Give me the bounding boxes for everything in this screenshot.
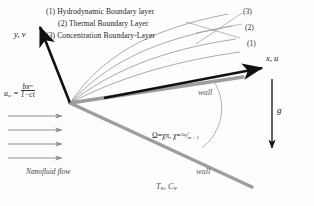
chi-fraction: 2m⁄m + 1	[181, 132, 199, 141]
legend-item-3: (3) Concentration Boundary-Layer	[46, 32, 155, 40]
chi-frac-numerator: 2m	[181, 132, 187, 137]
curve-label-3: (3)	[243, 8, 252, 16]
wedge-angle-formula: Ω=χπ, χ=2m⁄m + 1	[152, 132, 199, 141]
inflow-arrows	[8, 116, 62, 158]
wall-label-upper: wall	[198, 89, 212, 97]
wall-label-lower: wall	[196, 168, 210, 176]
wall-velocity-equals: =	[13, 90, 18, 98]
wall-velocity-numerator: bxm	[21, 83, 35, 90]
formula-comma: ,	[169, 131, 171, 140]
x-axis-arrow	[104, 68, 262, 98]
legend-item-1: (1) Hydrodynamic Boundary layer	[46, 8, 154, 16]
curve-label-2: (2)	[245, 24, 254, 32]
x-axis-label: x, u	[266, 54, 278, 63]
wall-velocity-fraction: bxm 1−ct	[21, 83, 35, 99]
wall-velocity-denominator: 1−ct	[21, 90, 35, 98]
wall-conditions: Tw, Cw	[156, 183, 177, 191]
wedge-upper-wall	[70, 77, 243, 103]
wedge-lower-wall	[70, 103, 252, 187]
curve-label-1: (1)	[247, 40, 256, 48]
chi-frac-denominator: m + 1	[188, 135, 199, 140]
gravity-label: g	[277, 106, 282, 115]
legend-item-2: (2) Thermal Boundary Layer	[58, 20, 148, 28]
wall-concentration-subscript: w	[174, 185, 177, 191]
nanofluid-flow-label: Nanofluid flow	[26, 168, 70, 175]
wall-velocity-num-exponent: m	[30, 83, 33, 88]
wall-temperature-subscript: w	[161, 185, 164, 191]
figure-canvas: (1) Hydrodynamic Boundary layer (2) Ther…	[0, 0, 314, 206]
y-axis-label: y, v	[14, 30, 25, 39]
wall-velocity-lhs: uw	[4, 90, 11, 99]
wall-velocity-formula: uw = bxm 1−ct	[4, 83, 35, 99]
wall-velocity-subscript: w	[8, 93, 11, 98]
